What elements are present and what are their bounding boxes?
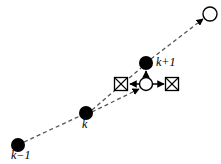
filled-node-k-plus-1: [139, 56, 153, 70]
open-node-future: [203, 7, 217, 21]
crossed-box-right: [166, 78, 179, 91]
dashed-edge-k-plus-1-to-future: [151, 19, 203, 59]
open-node-predicted: [140, 78, 153, 91]
dashed-edge-k-minus-1-to-k: [24, 116, 80, 142]
label-k-plus-1: k+1: [156, 56, 175, 68]
diagram-vector-layer: [0, 0, 221, 164]
diagram-canvas: k−1 k k+1: [0, 0, 221, 164]
label-k-minus-1: k−1: [11, 149, 30, 161]
label-k: k: [82, 118, 87, 130]
dashed-edge-k-to-predicted: [92, 89, 139, 112]
crossed-box-left: [115, 78, 128, 91]
